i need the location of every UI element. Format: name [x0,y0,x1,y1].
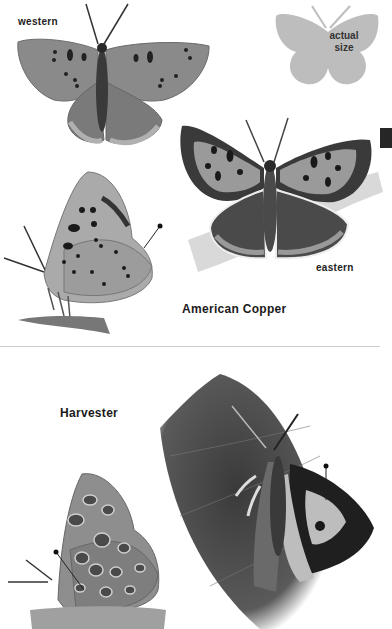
eastern-butterfly-illustration [178,112,388,272]
actual-size-line1: actual [324,30,364,42]
harvester-dorsal-illustration [150,366,392,629]
ground-perch [30,606,166,629]
pointer-dot [324,464,329,469]
actual-size-label: actual size [324,30,364,54]
pointer-dot [54,550,59,555]
species-title-american-copper: American Copper [182,302,287,316]
butterfly-side-view-icon [8,474,166,629]
butterfly-side-view-icon [4,172,163,334]
perch-leaf [18,316,110,334]
section-divider [0,346,380,347]
copper-side-view-illustration [4,168,169,338]
harvester-side-view-illustration [6,470,171,629]
eastern-label: eastern [316,262,354,273]
species-title-harvester: Harvester [60,406,118,420]
pointer-dot [158,224,163,229]
actual-size-line2: size [324,42,364,54]
